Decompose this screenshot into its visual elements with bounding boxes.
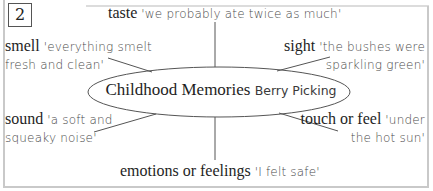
node-touch: touch or feel 'under the hot sun' — [300, 110, 425, 147]
center-title: Childhood Memories — [105, 80, 250, 99]
center-topic: Childhood Memories Berry Picking — [96, 79, 346, 102]
taste-quote: 'we probably ate twice as much' — [141, 7, 341, 21]
sound-quote-line1: 'a soft and — [47, 113, 112, 127]
emotions-quote: 'I felt safe' — [255, 165, 320, 179]
smell-quote-line1: 'everything smelt — [44, 40, 152, 54]
node-smell: smell 'everything smelt fresh and clean' — [5, 37, 152, 74]
emotions-label: emotions or feelings — [120, 162, 251, 179]
sound-quote-line2: squeaky noise' — [5, 129, 113, 147]
node-emotions: emotions or feelings 'I felt safe' — [120, 162, 320, 181]
node-sound: sound 'a soft and squeaky noise' — [5, 110, 113, 147]
sight-quote-line2: sparkling green' — [284, 56, 425, 74]
touch-quote-line1: 'under — [385, 113, 425, 127]
node-sight: sight 'the bushes were sparkling green' — [284, 37, 425, 74]
sight-label: sight — [284, 37, 315, 54]
touch-quote-line2: the hot sun' — [300, 129, 425, 147]
center-subtitle: Berry Picking — [255, 83, 337, 98]
sight-quote-line1: 'the bushes were — [319, 40, 425, 54]
node-taste: taste 'we probably ate twice as much' — [108, 4, 341, 23]
smell-quote-line2: fresh and clean' — [5, 56, 152, 74]
touch-label: touch or feel — [300, 110, 381, 127]
smell-label: smell — [5, 37, 40, 54]
sound-label: sound — [5, 110, 43, 127]
taste-label: taste — [108, 4, 137, 21]
